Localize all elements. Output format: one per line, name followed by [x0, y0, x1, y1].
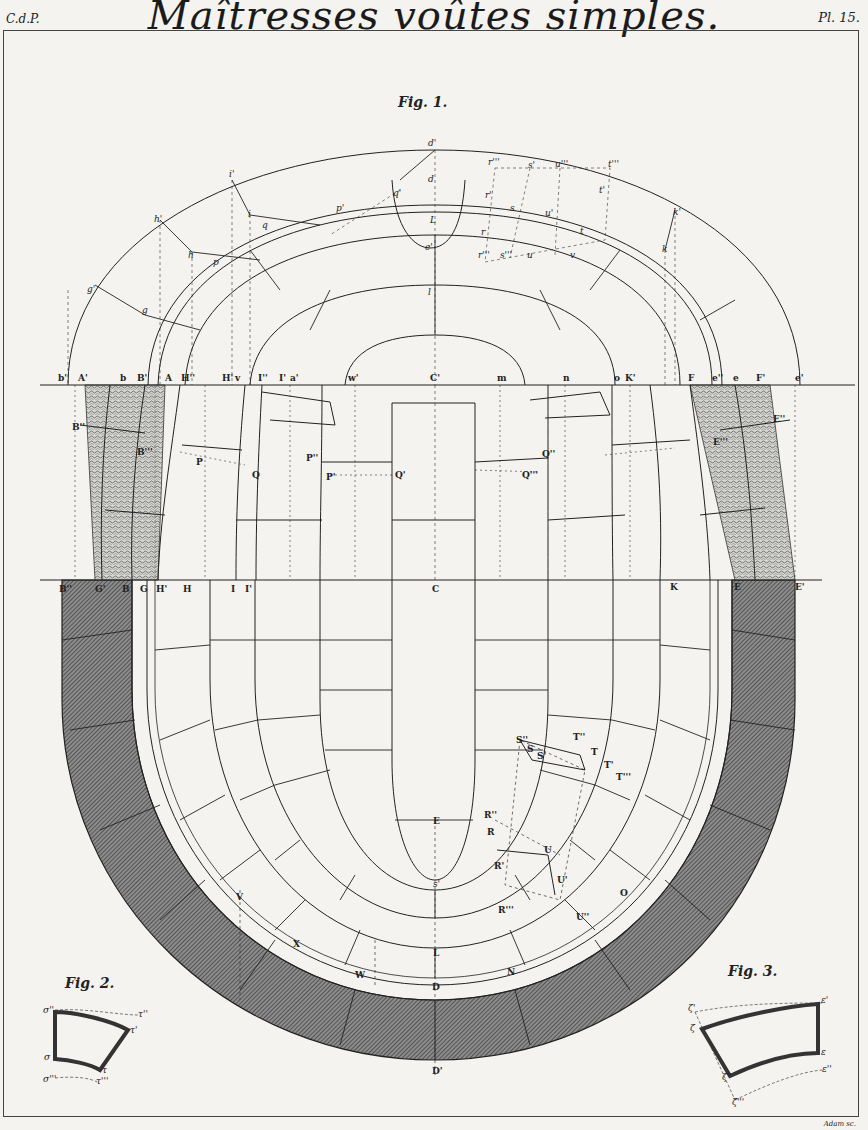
svg-text:p: p	[213, 257, 219, 267]
svg-text:t: t	[580, 226, 584, 236]
svg-text:r''': r'''	[488, 157, 500, 167]
svg-text:q: q	[262, 220, 268, 230]
svg-text:T''': T'''	[616, 772, 631, 782]
svg-text:U': U'	[557, 875, 568, 885]
svg-text:r': r'	[485, 190, 492, 200]
svg-text:E': E'	[795, 582, 805, 592]
svg-text:Q': Q'	[395, 470, 406, 480]
fig2-detail: Fig. 2. σ'' σ σ''' τ'' τ' τ τ'''	[43, 975, 148, 1086]
middle-band-labels: B'' B''' P Q P'' P' Q' Q'' Q''' E''' E''	[72, 414, 785, 482]
svg-text:E: E	[734, 582, 741, 592]
svg-text:B'': B''	[59, 584, 72, 594]
svg-text:σ'': σ''	[43, 1005, 54, 1015]
svg-text:d: d	[428, 174, 434, 184]
svg-text:B': B'	[137, 373, 147, 383]
svg-text:o: o	[614, 373, 620, 383]
svg-text:I': I'	[279, 373, 286, 383]
svg-text:D': D'	[432, 1066, 443, 1076]
svg-text:t''': t'''	[608, 159, 619, 169]
svg-text:b: b	[120, 373, 126, 383]
svg-text:ζ': ζ'	[688, 1003, 695, 1013]
upper-plan-labels: d' d q' L e' i' i q h' h p p' g' g l k' …	[87, 138, 681, 315]
lower-baseline-labels: B'' G' B G H' H I I' C K E E'	[59, 582, 805, 594]
svg-text:C': C'	[430, 373, 440, 383]
svg-text:E''': E'''	[713, 437, 728, 447]
svg-text:τ: τ	[102, 1065, 108, 1075]
svg-text:k': k'	[673, 207, 681, 217]
svg-text:e': e'	[425, 242, 433, 252]
svg-text:T': T'	[604, 760, 613, 770]
svg-text:g: g	[142, 305, 148, 315]
svg-text:s: s	[510, 203, 515, 213]
svg-text:I: I	[231, 584, 235, 594]
svg-text:i: i	[248, 209, 251, 219]
fig2-caption: Fig. 2.	[64, 975, 114, 991]
svg-text:F: F	[688, 373, 695, 383]
svg-text:C: C	[432, 584, 439, 594]
svg-text:E'': E''	[773, 414, 785, 424]
svg-text:k: k	[662, 244, 667, 254]
svg-text:E: E	[433, 816, 440, 826]
svg-text:R''': R'''	[498, 905, 514, 915]
svg-text:Q'': Q''	[542, 449, 555, 459]
svg-text:Q: Q	[252, 470, 260, 480]
svg-text:H: H	[183, 584, 192, 594]
svg-text:D: D	[432, 982, 440, 992]
svg-text:G': G'	[95, 584, 105, 594]
svg-text:P: P	[196, 457, 203, 467]
svg-text:u: u	[527, 250, 533, 260]
fig3-detail: Fig. 3. ζ' ζ ζ'' ζ''' ε' ε ε''	[688, 963, 832, 1107]
svg-text:w': w'	[347, 373, 359, 383]
svg-text:ζ: ζ	[690, 1023, 696, 1033]
svg-text:Q''': Q'''	[522, 470, 538, 480]
svg-text:r''': r'''	[478, 250, 490, 260]
svg-text:i': i'	[229, 169, 234, 179]
svg-text:X: X	[293, 939, 300, 949]
svg-text:v: v	[234, 373, 241, 383]
svg-text:L: L	[433, 948, 440, 958]
svg-text:e': e'	[795, 373, 803, 383]
svg-text:P'': P''	[306, 453, 318, 463]
svg-text:T: T	[591, 747, 598, 757]
svg-text:R'': R''	[484, 810, 497, 820]
svg-text:R: R	[487, 827, 495, 837]
svg-text:I': I'	[245, 584, 252, 594]
svg-text:s''': s'''	[500, 250, 512, 260]
svg-text:P': P'	[326, 472, 336, 482]
svg-text:v: v	[570, 250, 575, 260]
svg-text:h': h'	[154, 214, 162, 224]
svg-text:R': R'	[494, 861, 504, 871]
svg-text:ε: ε	[821, 1047, 826, 1057]
svg-text:V: V	[235, 892, 244, 902]
svg-text:G: G	[140, 584, 148, 594]
svg-text:τ': τ'	[130, 1025, 137, 1035]
svg-text:l: l	[428, 287, 431, 297]
svg-text:q': q'	[393, 188, 401, 198]
svg-text:H': H'	[222, 373, 233, 383]
svg-text:S': S'	[537, 751, 546, 761]
lower-plan	[62, 580, 795, 1075]
svg-text:s': s'	[433, 879, 440, 889]
svg-text:s': s'	[528, 160, 535, 170]
svg-text:r: r	[481, 227, 486, 237]
svg-text:n: n	[563, 373, 570, 383]
svg-text:g': g'	[87, 284, 95, 294]
svg-text:b': b'	[58, 373, 67, 383]
svg-text:K: K	[670, 582, 679, 592]
svg-text:m: m	[497, 373, 507, 383]
svg-text:τ'': τ''	[138, 1009, 148, 1019]
svg-text:e: e	[733, 373, 739, 383]
svg-text:ζ'': ζ''	[722, 1072, 732, 1082]
svg-text:A': A'	[77, 373, 88, 383]
svg-text:B''': B'''	[137, 447, 153, 457]
svg-text:B'': B''	[72, 422, 85, 432]
svg-text:W: W	[354, 970, 366, 980]
upper-baseline-labels: b' A' b B' A H'' H' v I'' I' a' w' C' m …	[58, 373, 803, 383]
svg-text:B: B	[122, 584, 130, 594]
svg-text:I'': I''	[258, 373, 268, 383]
fig1-caption: Fig. 1.	[397, 94, 447, 110]
svg-text:e'': e''	[712, 373, 723, 383]
upper-plan	[68, 150, 800, 385]
svg-text:N: N	[507, 967, 515, 977]
svg-text:τ''': τ'''	[96, 1076, 108, 1086]
